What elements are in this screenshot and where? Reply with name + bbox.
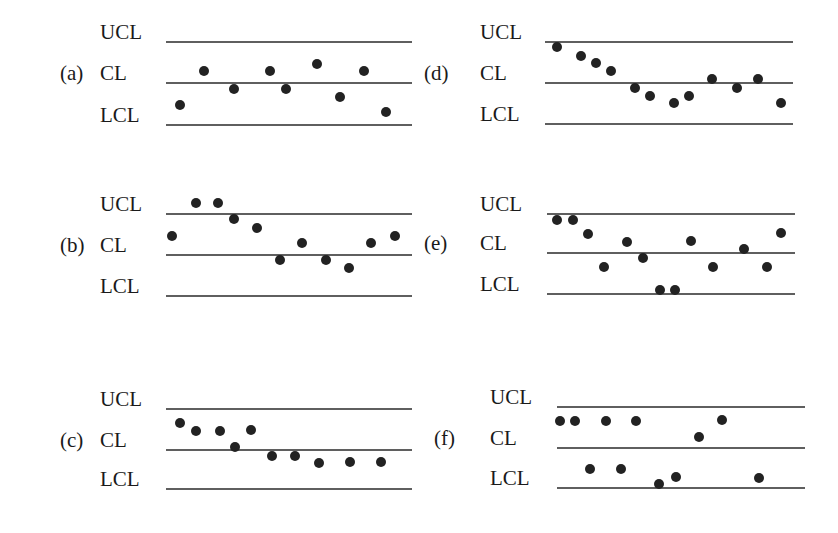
data-point (568, 215, 578, 225)
data-point (191, 426, 201, 436)
data-point (191, 198, 201, 208)
data-point (175, 418, 185, 428)
chart-tag: (b) (60, 233, 85, 257)
data-point (230, 442, 240, 452)
data-point (754, 473, 764, 483)
data-point (670, 285, 680, 295)
data-point (345, 457, 355, 467)
lcl-label: LCL (100, 467, 140, 491)
data-point (290, 451, 300, 461)
chart-tag: (c) (60, 428, 83, 452)
data-point (732, 83, 742, 93)
control-chart-d: (d)UCLCLLCL (424, 20, 793, 126)
control-chart-e: (e)UCLCLLCL (424, 192, 795, 296)
cl-label: CL (480, 231, 507, 255)
data-point (776, 98, 786, 108)
data-point (570, 416, 580, 426)
data-point (297, 238, 307, 248)
data-point (599, 262, 609, 272)
ucl-label: UCL (100, 20, 142, 44)
data-point (229, 84, 239, 94)
data-point (267, 451, 277, 461)
data-point (622, 237, 632, 247)
data-point (583, 229, 593, 239)
data-point (252, 223, 262, 233)
chart-tag: (e) (424, 231, 447, 255)
cl-label: CL (100, 233, 127, 257)
data-point (708, 262, 718, 272)
data-point (654, 479, 664, 489)
data-point (645, 91, 655, 101)
data-point (335, 92, 345, 102)
data-point (312, 59, 322, 69)
ucl-label: UCL (480, 192, 522, 216)
data-point (655, 285, 665, 295)
data-point (314, 458, 324, 468)
cl-label: CL (100, 61, 127, 85)
data-point (686, 236, 696, 246)
lcl-label: LCL (480, 102, 520, 126)
data-point (321, 255, 331, 265)
data-point (585, 464, 595, 474)
chart-tag: (a) (60, 61, 83, 85)
data-point (229, 214, 239, 224)
ucl-label: UCL (480, 20, 522, 44)
data-point (213, 198, 223, 208)
data-point (671, 472, 681, 482)
data-point (762, 262, 772, 272)
data-point (376, 457, 386, 467)
data-point (175, 100, 185, 110)
ucl-label: UCL (100, 387, 142, 411)
data-point (275, 255, 285, 265)
cl-label: CL (480, 61, 507, 85)
data-point (366, 238, 376, 248)
control-chart-f: (f)UCLCLLCL (434, 385, 805, 490)
data-point (669, 98, 679, 108)
lcl-label: LCL (100, 103, 140, 127)
control-chart-b: (b)UCLCLLCL (60, 192, 412, 298)
data-point (739, 244, 749, 254)
data-point (616, 464, 626, 474)
data-point (717, 415, 727, 425)
data-point (707, 74, 717, 84)
data-point (555, 416, 565, 426)
data-point (344, 263, 354, 273)
lcl-label: LCL (490, 466, 530, 490)
data-point (381, 107, 391, 117)
ucl-label: UCL (100, 192, 142, 216)
data-point (199, 66, 209, 76)
data-point (776, 228, 786, 238)
data-point (606, 66, 616, 76)
data-point (630, 83, 640, 93)
data-point (684, 91, 694, 101)
chart-tag: (f) (434, 426, 455, 450)
data-point (281, 84, 291, 94)
data-point (576, 51, 586, 61)
ucl-label: UCL (490, 385, 532, 409)
data-point (246, 425, 256, 435)
data-point (167, 231, 177, 241)
lcl-label: LCL (480, 272, 520, 296)
data-point (638, 253, 648, 263)
data-point (753, 74, 763, 84)
data-point (591, 58, 601, 68)
control-chart-figure: (a)UCLCLLCL(b)UCLCLLCL(c)UCLCLLCL(d)UCLC… (0, 0, 838, 533)
data-point (359, 66, 369, 76)
data-point (631, 416, 641, 426)
data-point (694, 432, 704, 442)
data-point (265, 66, 275, 76)
control-chart-c: (c)UCLCLLCL (60, 387, 412, 491)
cl-label: CL (100, 428, 127, 452)
data-point (552, 215, 562, 225)
control-chart-a: (a)UCLCLLCL (60, 20, 412, 127)
data-point (552, 42, 562, 52)
data-point (601, 416, 611, 426)
data-point (390, 231, 400, 241)
lcl-label: LCL (100, 274, 140, 298)
chart-tag: (d) (424, 61, 449, 85)
cl-label: CL (490, 426, 517, 450)
data-point (215, 426, 225, 436)
